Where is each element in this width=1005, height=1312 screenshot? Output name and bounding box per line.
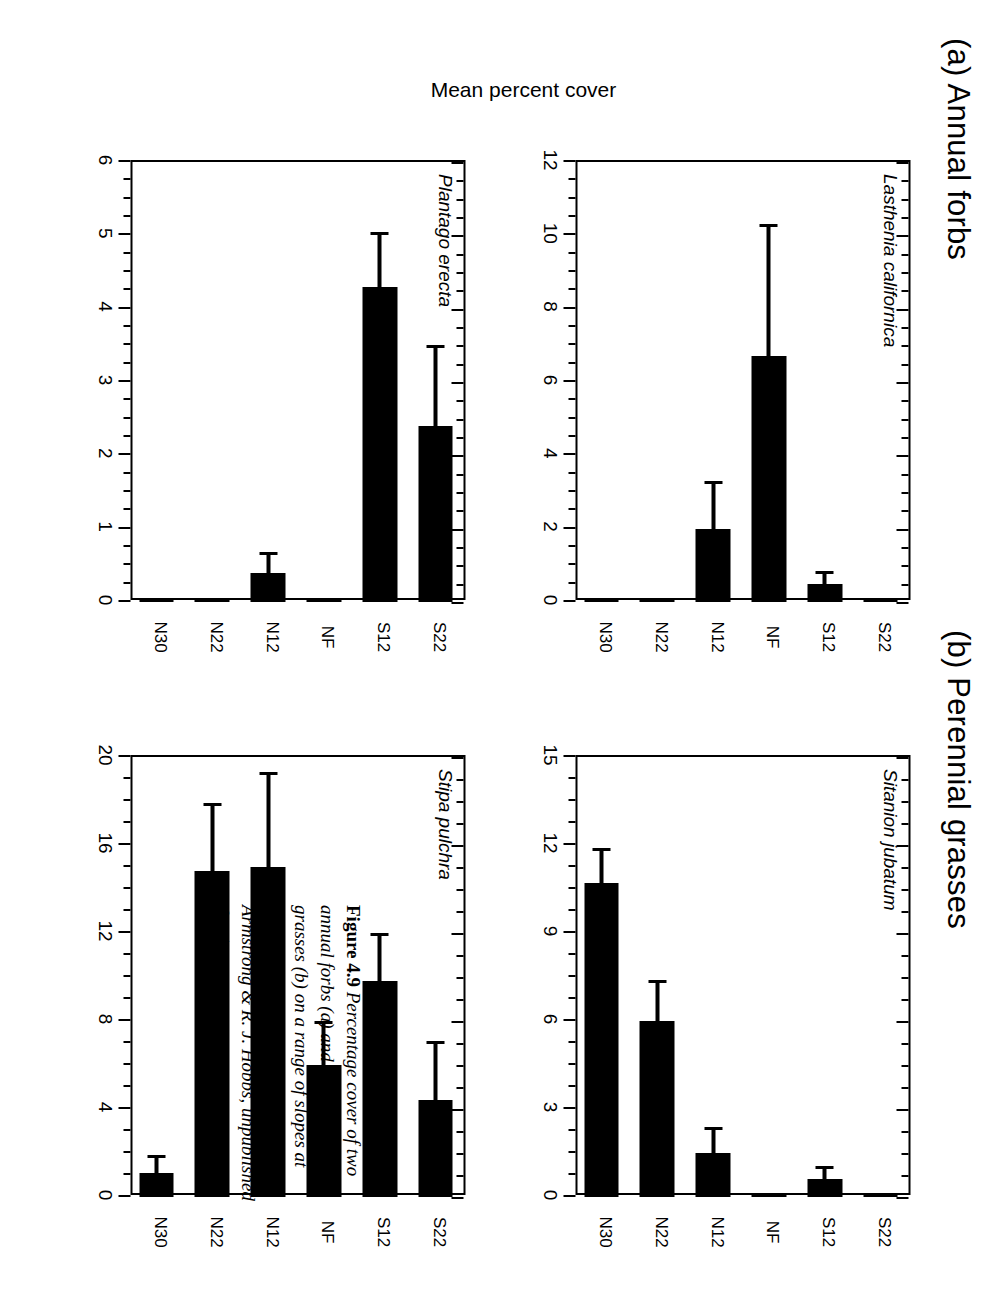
value-tick-minor bbox=[123, 362, 130, 364]
value-tick-label: 6 bbox=[538, 356, 560, 404]
value-tick-minor bbox=[568, 582, 575, 584]
value-tick-major bbox=[563, 233, 575, 235]
error-bar-N12 bbox=[711, 481, 715, 535]
value-tick-major bbox=[118, 380, 130, 382]
value-tick-minor bbox=[123, 343, 130, 345]
value-tick-minor bbox=[568, 777, 575, 779]
value-tick-minor bbox=[568, 197, 575, 199]
value-tick-major bbox=[563, 755, 575, 757]
value-tick-label: 9 bbox=[538, 907, 560, 955]
value-tick-minor bbox=[568, 799, 575, 801]
value-tick-minor bbox=[123, 435, 130, 437]
bar-S22 bbox=[863, 1194, 898, 1197]
value-tick-major bbox=[118, 453, 130, 455]
chart-panel-a-left: Lasthenia californicaS22S12NFN12N22N3002… bbox=[575, 160, 910, 600]
category-label-N22: N22 bbox=[650, 610, 670, 664]
value-axis bbox=[575, 742, 910, 755]
value-tick-minor bbox=[123, 252, 130, 254]
value-axis-ticks: 0123456 bbox=[84, 160, 130, 600]
error-bar-S12 bbox=[377, 232, 381, 293]
chart-panel-a-right: Plantago erectaS22S12NFN12N22N300123456 bbox=[130, 160, 465, 600]
value-tick-minor bbox=[123, 865, 130, 867]
value-tick-minor bbox=[568, 325, 575, 327]
value-tick-minor bbox=[123, 215, 130, 217]
value-tick-label: 3 bbox=[538, 1083, 560, 1131]
top-tick-major bbox=[896, 602, 908, 604]
value-tick-label: 6 bbox=[93, 136, 115, 184]
species-label: Lasthenia californica bbox=[878, 174, 900, 347]
bar-N12 bbox=[695, 1153, 730, 1197]
value-tick-label: 0 bbox=[93, 1171, 115, 1219]
category-label-N12: N12 bbox=[261, 1205, 281, 1259]
value-tick-minor bbox=[568, 563, 575, 565]
value-tick-minor bbox=[568, 435, 575, 437]
species-label: Stipa pulchra bbox=[433, 769, 455, 880]
value-tick-major bbox=[118, 160, 130, 162]
value-axis-ticks: 048121620 bbox=[84, 755, 130, 1195]
category-label-S12: S12 bbox=[817, 1205, 837, 1259]
section-title-a: (a) Annual forbs bbox=[939, 38, 975, 260]
bars-group bbox=[132, 162, 463, 598]
y-axis-label: Mean percent cover bbox=[393, 78, 653, 102]
category-label-NF: NF bbox=[316, 1205, 336, 1259]
value-tick-minor bbox=[568, 953, 575, 955]
category-label-S22: S22 bbox=[428, 1205, 448, 1259]
error-cap-S12 bbox=[370, 232, 388, 235]
error-bar-N12 bbox=[266, 772, 270, 873]
value-tick-label: 15 bbox=[538, 731, 560, 779]
value-axis bbox=[130, 742, 465, 755]
value-tick-minor bbox=[568, 997, 575, 999]
value-tick-minor bbox=[123, 975, 130, 977]
value-tick-label: 20 bbox=[93, 731, 115, 779]
bar-S22 bbox=[418, 1100, 453, 1197]
category-label-N30: N30 bbox=[594, 1205, 614, 1259]
category-label-N22: N22 bbox=[650, 1205, 670, 1259]
category-label-NF: NF bbox=[761, 610, 781, 664]
value-tick-minor bbox=[568, 508, 575, 510]
value-tick-major bbox=[563, 1019, 575, 1021]
bar-N12 bbox=[695, 529, 730, 602]
category-label-S22: S22 bbox=[428, 610, 448, 664]
value-tick-minor bbox=[568, 887, 575, 889]
bar-NF bbox=[751, 1194, 786, 1197]
value-tick-minor bbox=[568, 270, 575, 272]
value-tick-minor bbox=[123, 197, 130, 199]
value-tick-label: 10 bbox=[538, 209, 560, 257]
value-tick-minor bbox=[568, 490, 575, 492]
value-tick-label: 3 bbox=[93, 356, 115, 404]
value-tick-minor bbox=[568, 417, 575, 419]
value-tick-minor bbox=[123, 821, 130, 823]
bar-N30 bbox=[584, 883, 619, 1197]
value-tick-major bbox=[563, 380, 575, 382]
error-cap-N22 bbox=[203, 803, 221, 806]
category-label-N12: N12 bbox=[706, 610, 726, 664]
error-bar-N22 bbox=[210, 803, 214, 877]
category-label-S22: S22 bbox=[873, 610, 893, 664]
value-tick-minor bbox=[123, 1129, 130, 1131]
value-tick-major bbox=[118, 843, 130, 845]
top-tick-major bbox=[451, 1197, 463, 1199]
caption-text: Percentage cover of two annual forbs (a)… bbox=[211, 905, 363, 1201]
value-tick-minor bbox=[123, 1151, 130, 1153]
value-tick-minor bbox=[568, 1085, 575, 1087]
value-tick-minor bbox=[123, 1085, 130, 1087]
error-cap-N12 bbox=[259, 772, 277, 775]
category-label-N22: N22 bbox=[205, 610, 225, 664]
value-tick-minor bbox=[123, 490, 130, 492]
error-bar-S22 bbox=[433, 345, 437, 432]
value-tick-minor bbox=[568, 343, 575, 345]
value-tick-major bbox=[563, 527, 575, 529]
chart-panel-b-left: Sitanion jubatumS22S12NFN12N22N300369121… bbox=[575, 755, 910, 1195]
bar-N30 bbox=[584, 599, 619, 602]
category-label-NF: NF bbox=[316, 610, 336, 664]
category-label-N30: N30 bbox=[149, 610, 169, 664]
bar-N22 bbox=[639, 1021, 674, 1197]
plot-area: Lasthenia californica bbox=[575, 160, 910, 600]
error-cap-N12 bbox=[704, 481, 722, 484]
value-tick-minor bbox=[123, 545, 130, 547]
value-tick-major bbox=[118, 931, 130, 933]
category-label-N22: N22 bbox=[205, 1205, 225, 1259]
error-bar-N22 bbox=[655, 980, 659, 1027]
value-tick-minor bbox=[123, 953, 130, 955]
value-tick-label: 0 bbox=[538, 576, 560, 624]
